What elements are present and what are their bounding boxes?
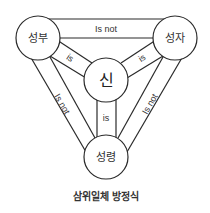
diagram-caption: 삼위일체 방정식	[73, 190, 139, 202]
node-god-label: 신	[99, 71, 114, 90]
edge-son-god-label: is	[137, 52, 148, 64]
node-father: 성부	[16, 16, 60, 60]
edge-god-spirit-label: is	[103, 113, 110, 123]
node-god: 신	[84, 58, 128, 102]
edge-son-spirit-label: Is not	[140, 92, 160, 116]
edge-father-spirit-label: Is not	[52, 92, 72, 116]
node-son: 성자	[153, 16, 197, 60]
edge-father-god-label: is	[65, 52, 76, 64]
trinity-shield-diagram: 성부 성자 신 성령 Is not is is is Is not Is not…	[0, 0, 210, 213]
edge-father-son-label: Is not	[95, 24, 118, 34]
node-spirit: 성령	[84, 135, 128, 179]
node-spirit-label: 성령	[96, 151, 116, 164]
node-son-label: 성자	[165, 32, 185, 45]
node-father-label: 성부	[28, 32, 48, 45]
